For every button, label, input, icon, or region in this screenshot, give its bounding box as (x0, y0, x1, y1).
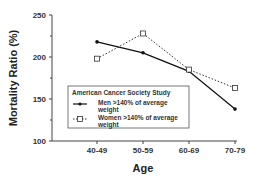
x-tick-label: 40-49 (87, 146, 108, 155)
data-point-men (95, 40, 99, 44)
legend-title: American Cancer Society Study (72, 89, 171, 97)
y-ticks: 100150200250 (33, 11, 52, 146)
data-point-women (141, 31, 146, 36)
legend-men-marker (78, 102, 81, 105)
legend-men-label-2: weight (97, 106, 119, 114)
x-tick-label: 70-79 (225, 146, 246, 155)
legend: American Cancer Society Study Men >140% … (68, 86, 189, 129)
data-point-women (95, 56, 100, 61)
legend-women-marker (78, 117, 83, 122)
series-line-1 (97, 33, 235, 88)
y-axis-title: Mortality Ratio (%) (7, 29, 19, 126)
x-axis-title: Age (133, 162, 154, 174)
y-tick-label: 150 (33, 95, 47, 104)
line-chart: 100150200250 40-4950-5960-6970-79 Mortal… (0, 0, 258, 179)
data-point-men (233, 107, 237, 111)
data-point-women (187, 67, 192, 72)
legend-women-label-2: weight (97, 121, 119, 129)
data-point-men (141, 51, 145, 55)
x-tick-label: 60-69 (179, 146, 200, 155)
data-point-women (233, 86, 238, 91)
x-ticks: 40-4950-5960-6970-79 (87, 141, 246, 155)
y-tick-label: 100 (33, 137, 47, 146)
y-tick-label: 250 (33, 11, 47, 20)
x-tick-label: 50-59 (133, 146, 154, 155)
y-tick-label: 200 (33, 53, 47, 62)
